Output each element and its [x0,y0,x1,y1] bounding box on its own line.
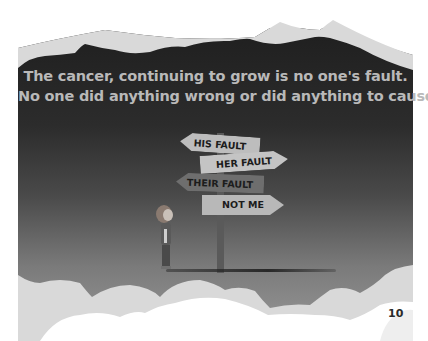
caption-line-2: No one did anything wrong or did anythin… [18,86,413,106]
sign-not-me: NOT ME [202,195,284,213]
signpost-illustration: HIS FAULT HER FAULT THEIR FAULT NOT ME [170,128,290,273]
sign-label: THEIR FAULT [187,176,254,189]
sign-label: NOT ME [222,199,264,210]
bottom-clouds-illustration [0,255,428,341]
page-number: 10 [388,307,403,320]
sign-her-fault: HER FAULT [199,150,288,174]
sign-their-fault: THEIR FAULT [176,172,265,193]
top-clouds-illustration [0,0,428,75]
caption-line-1: The cancer, continuing to grow is no one… [18,66,413,86]
storybook-page: The cancer, continuing to grow is no one… [0,0,428,341]
story-caption: The cancer, continuing to grow is no one… [18,66,413,106]
